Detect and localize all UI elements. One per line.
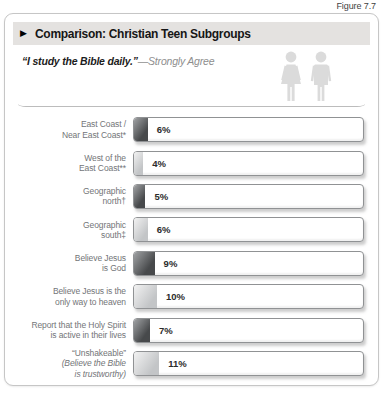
bar-value: 6% [157,224,171,235]
bar-fill [134,118,148,141]
chart-panel: ▶ Comparison: Christian Teen Subgroups “… [4,13,379,386]
figure: Figure 7.7 ▶ Comparison: Christian Teen … [0,0,383,394]
bar-value: 4% [152,158,166,169]
bar-track: 5% [133,184,364,209]
bar-row: East Coast /Near East Coast* 6% [5,113,378,146]
bar-fill [134,352,159,375]
bar-value: 10% [166,291,185,302]
category-label: Report that the Holy Spiritis active in … [5,320,133,341]
category-label: East Coast /Near East Coast* [5,119,133,140]
bar-row: Believe Jesus is theonly way to heaven 1… [5,280,378,313]
chart-title: Comparison: Christian Teen Subgroups [35,27,251,41]
bar-fill [134,319,150,342]
bar-row: “Unshakeable”(Believe the Bibleis trustw… [5,347,378,380]
bar-row: Geographicsouth‡ 6% [5,213,378,246]
bar-track: 7% [133,318,364,343]
bar-value: 11% [168,358,187,369]
chart-subtitle: “I study the Bible daily.”—Strongly Agre… [22,55,214,67]
bar-value: 9% [164,258,178,269]
bar-value: 6% [157,124,171,135]
bar-row: Believe Jesusis God 9% [5,247,378,280]
header-divider [18,103,365,107]
bar-value: 5% [154,191,168,202]
category-label: Believe Jesusis God [5,253,133,274]
category-label: Geographicsouth‡ [5,220,133,241]
subtitle-qualifier: —Strongly Agree [138,55,215,67]
bar-track: 9% [133,251,364,276]
category-label: Geographicnorth† [5,186,133,207]
bar-fill [134,152,143,175]
triangle-bullet-icon: ▶ [20,29,27,38]
bar-fill [134,252,155,275]
bar-fill [134,185,145,208]
category-label: Believe Jesus is theonly way to heaven [5,286,133,307]
bar-fill [134,285,157,308]
chart-header: ▶ Comparison: Christian Teen Subgroups [13,22,370,45]
bar-track: 6% [133,117,364,142]
bar-track: 6% [133,217,364,242]
bar-track: 4% [133,151,364,176]
bar-row: Geographicnorth† 5% [5,180,378,213]
bar-rows: East Coast /Near East Coast* 6% West of … [5,113,378,380]
bar-value: 7% [159,325,173,336]
bar-fill [134,218,148,241]
category-label: West of theEast Coast** [5,153,133,174]
bar-track: 10% [133,284,364,309]
figure-caption: Figure 7.7 [336,1,376,11]
female-male-couple-icon [276,51,338,104]
bar-row: Report that the Holy Spiritis active in … [5,313,378,346]
bar-row: West of theEast Coast** 4% [5,146,378,179]
bar-track: 11% [133,351,364,376]
category-label: “Unshakeable”(Believe the Bibleis trustw… [5,348,133,379]
subtitle-quote: “I study the Bible daily.” [22,55,138,67]
